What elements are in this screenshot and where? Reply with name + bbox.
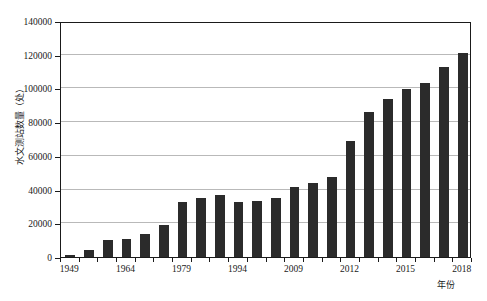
x-tick-mark <box>153 258 154 262</box>
x-tick-label: 2009 <box>271 264 317 274</box>
x-tick-mark <box>228 258 229 262</box>
x-tick-mark <box>452 258 453 262</box>
x-tick-mark <box>266 258 267 262</box>
x-tick-label: 1979 <box>158 264 204 274</box>
x-tick-mark <box>60 258 61 262</box>
x-tick-label: 2015 <box>383 264 429 274</box>
x-tick-mark <box>135 258 136 262</box>
x-axis-ticks: 19491964197919942009201220152018 <box>0 0 487 301</box>
x-tick-mark <box>396 258 397 262</box>
x-tick-mark <box>303 258 304 262</box>
x-tick-mark <box>378 258 379 262</box>
x-axis-title: 年份 <box>416 278 476 291</box>
x-tick-label: 2018 <box>439 264 485 274</box>
x-tick-mark <box>284 258 285 262</box>
x-tick-label: 1949 <box>46 264 92 274</box>
x-tick-mark <box>191 258 192 262</box>
x-tick-mark <box>97 258 98 262</box>
bar-chart: 水文测站数量（处） 020000400006000080000100000120… <box>0 0 487 301</box>
x-tick-mark <box>247 258 248 262</box>
x-tick-label: 1964 <box>102 264 148 274</box>
x-tick-mark <box>322 258 323 262</box>
x-tick-mark <box>172 258 173 262</box>
x-tick-label: 1994 <box>214 264 260 274</box>
x-tick-mark <box>434 258 435 262</box>
x-tick-mark <box>340 258 341 262</box>
x-tick-mark <box>415 258 416 262</box>
x-tick-mark <box>471 258 472 262</box>
x-tick-label: 2012 <box>327 264 373 274</box>
x-tick-mark <box>359 258 360 262</box>
x-tick-mark <box>209 258 210 262</box>
x-tick-mark <box>116 258 117 262</box>
x-tick-mark <box>79 258 80 262</box>
